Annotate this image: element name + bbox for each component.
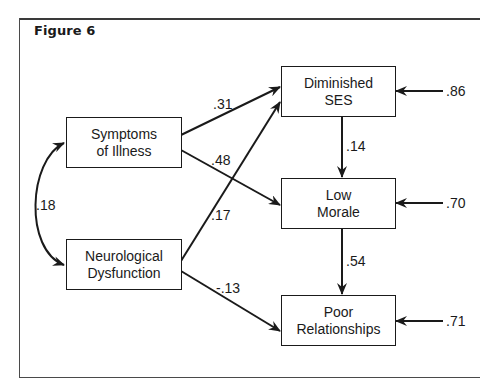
node-label: Symptoms bbox=[91, 126, 157, 143]
path-diagram-edges bbox=[0, 0, 491, 385]
coef-neuro-ses: .17 bbox=[211, 208, 230, 222]
node-label: SES bbox=[324, 92, 352, 109]
node-label: Low bbox=[326, 187, 352, 204]
coef-ses-morale: .14 bbox=[346, 139, 365, 153]
arrow-neuro-to-ses bbox=[181, 102, 280, 261]
coef-symptoms-ses: .31 bbox=[213, 97, 232, 111]
coef-symptoms-morale: .48 bbox=[211, 153, 230, 167]
node-symptoms-of-illness: Symptoms of Illness bbox=[66, 117, 182, 168]
node-poor-relationships: Poor Relationships bbox=[281, 295, 396, 346]
node-diminished-ses: Diminished SES bbox=[281, 66, 396, 117]
node-label: Relationships bbox=[296, 321, 380, 338]
node-label: Neurological bbox=[85, 248, 163, 265]
residual-morale: .70 bbox=[446, 196, 465, 210]
coef-neuro-poor: -.13 bbox=[216, 281, 240, 295]
coef-morale-poor: .54 bbox=[346, 254, 365, 268]
residual-ses: .86 bbox=[446, 84, 465, 98]
node-label: Dysfunction bbox=[87, 265, 160, 282]
arrow-symptoms-to-morale bbox=[181, 150, 280, 205]
node-neurological-dysfunction: Neurological Dysfunction bbox=[66, 239, 182, 290]
coef-correlation: .18 bbox=[36, 198, 55, 212]
node-label: Poor bbox=[324, 304, 354, 321]
node-label: Morale bbox=[317, 204, 360, 221]
node-low-morale: Low Morale bbox=[281, 178, 396, 229]
node-label: of Illness bbox=[96, 143, 151, 160]
residual-poor: .71 bbox=[446, 314, 465, 328]
node-label: Diminished bbox=[304, 75, 373, 92]
